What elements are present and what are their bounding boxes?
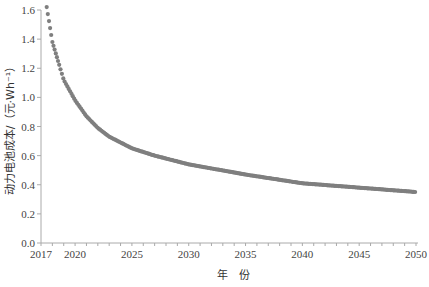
data-point xyxy=(51,44,55,48)
data-point xyxy=(57,63,61,67)
data-point xyxy=(55,55,59,59)
x-axis: 20172020202520302035204020452050 xyxy=(30,243,428,260)
y-tick-label: 1.2 xyxy=(21,62,35,74)
x-tick-label: 2017 xyxy=(30,248,53,260)
y-tick-label: 1.6 xyxy=(21,4,35,16)
y-tick-label: 1.0 xyxy=(21,91,35,103)
data-point xyxy=(60,72,64,76)
y-tick-label: 1.4 xyxy=(21,33,35,45)
y-axis-title: 动力电池成本/（元·Wh⁻¹） xyxy=(3,61,17,195)
y-tick-label: 0.8 xyxy=(21,121,35,133)
data-point xyxy=(413,190,417,194)
data-point xyxy=(53,48,57,52)
x-axis-title: 年 份 xyxy=(217,268,250,282)
data-point xyxy=(50,40,54,44)
data-point xyxy=(45,5,49,9)
x-tick-label: 2030 xyxy=(178,248,201,260)
data-point xyxy=(56,59,60,63)
data-point xyxy=(47,19,51,23)
data-series xyxy=(45,5,418,194)
data-point xyxy=(46,12,50,16)
y-tick-label: 0.2 xyxy=(21,208,35,220)
data-point xyxy=(58,67,62,71)
x-tick-label: 2020 xyxy=(64,248,87,260)
data-point xyxy=(49,33,53,37)
x-tick-label: 2050 xyxy=(405,248,428,260)
y-tick-label: 0.6 xyxy=(21,150,35,162)
x-tick-label: 2035 xyxy=(235,248,258,260)
data-point xyxy=(48,26,52,30)
x-tick-label: 2040 xyxy=(291,248,314,260)
y-tick-label: 0.4 xyxy=(21,179,35,191)
data-point xyxy=(54,51,58,55)
y-axis: 0.00.20.40.60.81.01.21.41.6 xyxy=(21,4,41,249)
x-tick-label: 2025 xyxy=(121,248,144,260)
chart-canvas: 0.00.20.40.60.81.01.21.41.6 201720202025… xyxy=(0,0,429,287)
x-tick-label: 2045 xyxy=(348,248,371,260)
